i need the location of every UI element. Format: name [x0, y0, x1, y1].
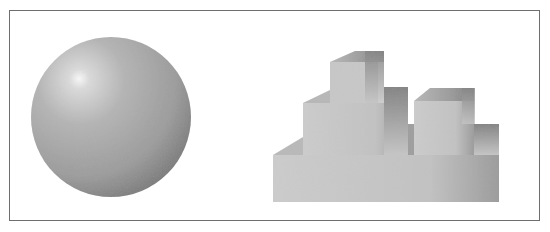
stepped-blocks: [273, 51, 499, 202]
sphere: [31, 37, 191, 197]
illustration: [0, 0, 550, 232]
